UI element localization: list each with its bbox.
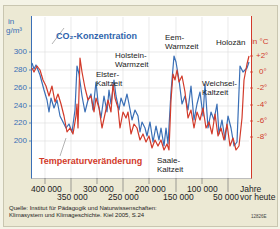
right-unit: in °C xyxy=(251,37,268,46)
y-left-tick: 280 xyxy=(3,65,27,74)
co2-series-label: CO₂-Konzentration xyxy=(56,31,137,41)
annotation-holstein: Holstein-Warmzeit xyxy=(115,51,148,69)
annotation-weichsel: Weichsel-Kaltzeit xyxy=(202,79,237,97)
temperature-series-label: Temperaturveränderung xyxy=(39,156,142,166)
annotation-elster: Elster-Kaltzeit xyxy=(96,70,122,88)
left-unit-in: in xyxy=(8,17,14,26)
y-right-tick: -6° xyxy=(257,116,267,125)
y-right-tick: -8° xyxy=(257,132,267,141)
co2-line xyxy=(32,56,249,146)
y-left-tick: 220 xyxy=(3,118,27,127)
y-left-tick: 240 xyxy=(3,101,27,110)
y-right-tick: -2° xyxy=(257,83,267,92)
left-unit-gm3: g/m³ xyxy=(6,26,22,35)
x-unit-vor-heute: vor heute xyxy=(240,192,275,202)
annotation-holozaen: Holozän xyxy=(216,38,245,47)
y-right-tick: 0° xyxy=(259,67,267,76)
y-left-tick: 300 xyxy=(3,47,27,56)
y-right-tick: -4° xyxy=(257,100,267,109)
y-left-tick: 200 xyxy=(3,136,27,145)
y-right-tick: +2° xyxy=(256,51,268,60)
x-tick: 200 000 xyxy=(135,184,166,194)
annotation-eem: Eem-Warmzeit xyxy=(165,33,198,51)
annotation-saale: Saale-Kaltzeit xyxy=(157,156,183,174)
y-left-tick: 260 xyxy=(3,83,27,92)
source-citation: Quelle: Institut für Pädagogik und Natur… xyxy=(9,205,157,219)
x-tick: 50 000 xyxy=(213,192,239,202)
figure-code: 12826E xyxy=(251,214,267,219)
